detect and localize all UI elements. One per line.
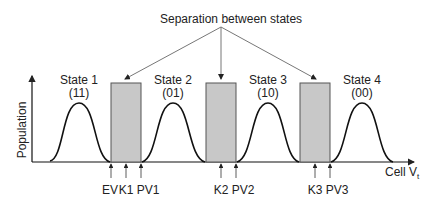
pointer-arrows [125, 27, 316, 79]
svg-text:PV1: PV1 [137, 183, 160, 197]
svg-text:EV: EV [102, 183, 118, 197]
svg-text:State 4: State 4 [343, 73, 381, 87]
x-axis-label: Cell Vt [385, 165, 420, 181]
svg-text:(00): (00) [351, 86, 372, 100]
y-axis-label: Population [15, 102, 29, 159]
separation-boxes [111, 83, 330, 162]
svg-text:State 3: State 3 [249, 73, 287, 87]
svg-text:PV2: PV2 [232, 183, 255, 197]
svg-text:K3: K3 [308, 183, 323, 197]
svg-text:K1: K1 [119, 183, 134, 197]
svg-text:K2: K2 [214, 183, 229, 197]
marker-arrows [111, 164, 330, 178]
svg-text:PV3: PV3 [326, 183, 349, 197]
svg-text:(10): (10) [257, 86, 278, 100]
svg-text:(01): (01) [162, 86, 183, 100]
marker-labels: EV K1 PV1 K2 PV2 K3 PV3 [102, 183, 349, 197]
title: Separation between states [160, 12, 302, 26]
svg-text:State 2: State 2 [154, 73, 192, 87]
diagram: Separation between states Population Cel… [0, 0, 436, 204]
svg-text:State 1: State 1 [60, 73, 98, 87]
svg-text:(11): (11) [69, 86, 89, 100]
